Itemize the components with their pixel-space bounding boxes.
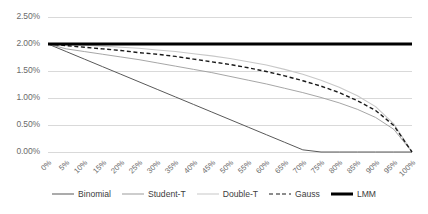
legend-label: Gauss — [295, 189, 320, 199]
legend-label: LMM — [357, 189, 376, 199]
legend-swatch-icon — [269, 190, 291, 198]
chart-container: 2.50%2.00%1.50%1.00%0.50%0.00% 0%5%10%15… — [0, 0, 428, 214]
chart-legend: BinomialStudent-TDouble-TGaussLMM — [0, 186, 428, 202]
legend-label: Binomial — [78, 189, 111, 199]
legend-swatch-icon — [331, 190, 353, 198]
legend-swatch-icon — [52, 190, 74, 198]
legend-swatch-icon — [197, 190, 219, 198]
legend-item-gauss[interactable]: Gauss — [269, 189, 320, 199]
gridlines — [48, 17, 412, 152]
legend-item-student-t[interactable]: Student-T — [122, 189, 186, 199]
legend-label: Double-T — [223, 189, 258, 199]
legend-item-lmm[interactable]: LMM — [331, 189, 376, 199]
legend-item-binomial[interactable]: Binomial — [52, 189, 111, 199]
plot-area — [0, 0, 428, 214]
legend-item-double-t[interactable]: Double-T — [197, 189, 258, 199]
legend-label: Student-T — [148, 189, 186, 199]
legend-swatch-icon — [122, 190, 144, 198]
